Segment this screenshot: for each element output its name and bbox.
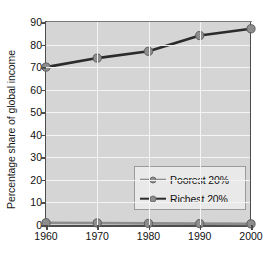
data-point-marker: [247, 25, 255, 33]
line-chart: Percentage share of global income 010203…: [0, 0, 268, 259]
x-tick-label: 1970: [86, 231, 109, 242]
y-tick-label: 50: [20, 107, 42, 118]
x-tick-label: 2000: [239, 231, 262, 242]
gridline-vertical: [149, 22, 150, 225]
y-tick-label: 40: [20, 130, 42, 141]
plot-area: Poorest 20% Richest 20%: [46, 22, 251, 225]
y-tickmark: [41, 202, 46, 204]
x-tick-label: 1990: [188, 231, 211, 242]
y-tickmark: [41, 90, 46, 92]
y-tickmark: [41, 22, 46, 24]
y-tickmark: [41, 45, 46, 47]
y-tick-label: 90: [20, 17, 42, 28]
x-tick-label: 1960: [34, 231, 57, 242]
gridline-vertical: [97, 22, 98, 225]
y-tickmark: [41, 157, 46, 159]
x-axis-tick-labels: 19601970198019902000: [0, 231, 268, 249]
x-tick-label: 1980: [137, 231, 160, 242]
y-tickmark: [41, 112, 46, 114]
y-tick-label: 20: [20, 175, 42, 186]
gridline-vertical: [200, 22, 201, 225]
y-tick-label: 30: [20, 152, 42, 163]
y-tickmark: [41, 135, 46, 137]
y-tickmark: [41, 67, 46, 69]
y-tickmark: [41, 180, 46, 182]
y-tick-label: 60: [20, 84, 42, 95]
y-tick-label: 0: [20, 220, 42, 231]
y-tick-label: 70: [20, 62, 42, 73]
legend-item-richest: Richest 20%: [140, 189, 241, 208]
y-tick-label: 80: [20, 39, 42, 50]
y-tick-label: 10: [20, 197, 42, 208]
y-axis-tick-labels: 0102030405060708090: [18, 0, 42, 259]
